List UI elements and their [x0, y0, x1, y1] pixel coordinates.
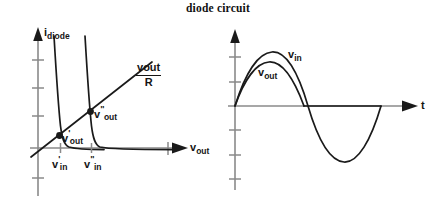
- label-vin-prime: v'in: [52, 156, 67, 170]
- x-axis-label: t: [421, 100, 425, 111]
- load-line-graph: idiode vout vout R v'out v"out v'in v"in: [0, 0, 218, 216]
- label-vout-waveform: vout: [258, 67, 277, 78]
- waveform-svg: [218, 0, 436, 216]
- x-axis-arrowhead: [172, 143, 188, 154]
- label-vout-prime: v'out: [62, 130, 83, 144]
- label-vout-double-prime: v"out: [94, 106, 117, 120]
- load-line-label: vout R: [136, 62, 161, 89]
- y-axis-label: idiode: [44, 27, 70, 38]
- operating-point-vout-double-prime: [87, 108, 94, 115]
- y-axis-arrowhead: [230, 29, 240, 43]
- label-vin-double-prime: v"in: [84, 156, 101, 170]
- load-line-denominator: R: [136, 77, 161, 89]
- x-axis-arrowhead: [402, 101, 418, 112]
- load-line-numerator: vout: [136, 62, 161, 75]
- diode-circuit-figure: diode circuit: [0, 0, 436, 216]
- waveform-graph: vin vout t: [218, 0, 436, 216]
- x-axis-label: vout: [190, 142, 209, 153]
- diode-curve-2: [85, 36, 172, 150]
- y-axis-arrowhead: [33, 27, 43, 41]
- label-vin-waveform: vin: [288, 49, 302, 60]
